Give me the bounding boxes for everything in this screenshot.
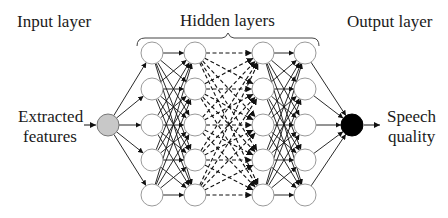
hidden-node <box>141 42 163 64</box>
hidden-node <box>184 149 206 171</box>
hidden-node <box>141 184 163 206</box>
hidden-node <box>252 78 274 100</box>
output-node <box>341 114 363 136</box>
hidden-node <box>294 42 316 64</box>
hidden-node <box>252 42 274 64</box>
hidden-node <box>141 114 163 136</box>
hidden-node <box>252 184 274 206</box>
hidden-node <box>184 114 206 136</box>
hidden-node <box>294 184 316 206</box>
edge <box>117 96 144 118</box>
hidden-node <box>294 149 316 171</box>
hidden-node <box>184 42 206 64</box>
input-layer-label: Input layer <box>17 12 91 31</box>
hidden-node <box>141 149 163 171</box>
hidden-node <box>184 184 206 206</box>
hidden-node <box>294 78 316 100</box>
hidden-node <box>141 78 163 100</box>
hidden-layers-brace <box>137 33 319 46</box>
hidden-node <box>294 114 316 136</box>
neural-network-diagram: Input layer Hidden layers Output layer E… <box>0 0 448 218</box>
input-node <box>97 114 119 136</box>
hidden-node <box>252 114 274 136</box>
edge <box>117 132 144 153</box>
output-layer-label: Output layer <box>347 12 433 31</box>
hidden-layers-label: Hidden layers <box>180 11 275 30</box>
edge <box>314 96 344 119</box>
hidden-node <box>252 149 274 171</box>
input-features-label-line1: Extracted <box>18 107 84 126</box>
output-quality-label-line1: Speech <box>387 107 437 126</box>
input-features-label-line2: features <box>23 127 77 146</box>
output-quality-label-line2: quality <box>388 127 436 146</box>
edge <box>314 132 343 154</box>
hidden-node <box>184 78 206 100</box>
